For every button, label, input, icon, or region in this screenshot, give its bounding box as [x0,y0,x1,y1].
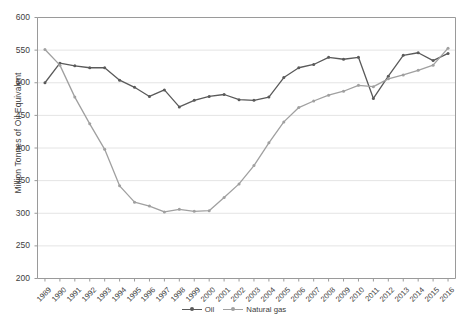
data-point [178,105,181,108]
data-point [402,73,405,76]
data-point [133,201,136,204]
data-point [178,208,181,211]
data-point [133,86,136,89]
data-point [238,98,241,101]
data-point [312,63,315,66]
data-point [118,184,121,187]
data-point [372,85,375,88]
plot-area [0,0,468,323]
legend-label: Oil [205,305,215,314]
data-point [387,75,390,78]
data-point [297,66,300,69]
data-point [327,94,330,97]
legend-item-oil[interactable]: Oil [182,305,215,314]
data-point [88,122,91,125]
data-point [252,164,255,167]
data-point [73,64,76,67]
data-point [417,69,420,72]
data-point [208,95,211,98]
data-point [163,88,166,91]
data-point [402,54,405,57]
y-tick-label: 550 [0,45,30,55]
data-point [238,182,241,185]
y-tick-label: 350 [0,175,30,185]
data-point [297,106,300,109]
y-tick-label: 250 [0,240,30,250]
data-series-layer [43,47,449,214]
data-point [327,56,330,59]
data-point [342,90,345,93]
data-point [312,100,315,103]
data-point [267,141,270,144]
data-point [357,56,360,59]
data-point [103,148,106,151]
data-point [73,96,76,99]
legend-label: Natural gas [246,305,286,314]
data-point [282,120,285,123]
data-point [342,58,345,61]
data-point [58,64,61,67]
series-natural-gas [43,47,449,214]
data-point [88,66,91,69]
data-point [372,97,375,100]
y-tick-label: 500 [0,77,30,87]
data-point [223,196,226,199]
data-point [208,209,211,212]
data-point [417,51,420,54]
data-point [193,210,196,213]
data-point [447,52,450,55]
chart-legend: OilNatural gas [0,305,468,314]
legend-swatch-icon [182,306,202,313]
data-point [43,81,46,84]
data-point [118,79,121,82]
y-tick-label: 300 [0,208,30,218]
y-tick-label: 600 [0,12,30,22]
legend-swatch-icon [223,306,243,313]
data-point [447,47,450,50]
data-point [148,205,151,208]
data-point [267,96,270,99]
data-point [223,93,226,96]
data-point [252,99,255,102]
data-point [148,95,151,98]
data-point [103,66,106,69]
data-point [193,99,196,102]
y-tick-label: 400 [0,143,30,153]
data-point [432,59,435,62]
line-chart: Million Tonnes of Oil Equivalent 2002503… [0,0,468,323]
data-point [432,64,435,67]
y-tick-label: 200 [0,273,30,283]
data-point [43,48,46,51]
series-line [45,48,448,212]
data-point [357,84,360,87]
y-tick-label: 450 [0,110,30,120]
data-point [387,77,390,80]
legend-item-natural-gas[interactable]: Natural gas [223,305,286,314]
data-point [163,210,166,213]
gridlines [38,18,456,246]
data-point [282,76,285,79]
